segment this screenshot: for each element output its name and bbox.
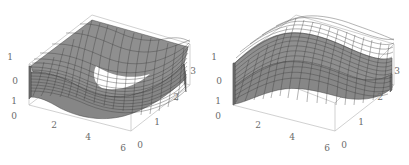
- ytick-1r-right: 1: [358, 117, 364, 127]
- ztick-0-right: 0: [216, 76, 222, 86]
- figure-canvas: 1 0 1 0 2 4 6 0 1 2 3: [0, 0, 409, 165]
- ytick-2-right: 2: [377, 92, 383, 102]
- ytick-3-right: 3: [394, 66, 400, 76]
- xtick-6-left: 6: [120, 143, 126, 153]
- ztick-1-left: 1: [7, 52, 13, 62]
- ytick-origin-left: 0: [137, 140, 143, 150]
- ztick-0-left: 0: [12, 76, 18, 86]
- ytick-0-left: 0: [11, 111, 17, 121]
- ytick-1r-left: 1: [154, 117, 160, 127]
- ytick-origin-right: 0: [341, 140, 347, 150]
- xtick-6-right: 6: [324, 143, 330, 153]
- xtick-4-right: 4: [289, 132, 295, 142]
- ytick-3-left: 3: [190, 66, 196, 76]
- ztick-1-right: 1: [211, 52, 217, 62]
- xtick-2-right: 2: [255, 120, 261, 130]
- surface-plot-right: 1 0 1 0 2 4 6 0 1 2 3: [204, 0, 409, 165]
- xtick-2-left: 2: [51, 120, 57, 130]
- ytick-0-right: 0: [215, 111, 221, 121]
- surface-plot-left: 1 0 1 0 2 4 6 0 1 2 3: [0, 0, 205, 165]
- surface-mesh-right: [233, 16, 394, 105]
- ytick-1-left: 1: [11, 96, 17, 106]
- ytick-1-right: 1: [215, 96, 221, 106]
- surface-plot-right-svg: 1 0 1 0 2 4 6 0 1 2 3: [204, 0, 409, 165]
- ytick-2-left: 2: [173, 92, 179, 102]
- surface-plot-left-svg: 1 0 1 0 2 4 6 0 1 2 3: [0, 0, 205, 165]
- xtick-4-left: 4: [85, 132, 91, 142]
